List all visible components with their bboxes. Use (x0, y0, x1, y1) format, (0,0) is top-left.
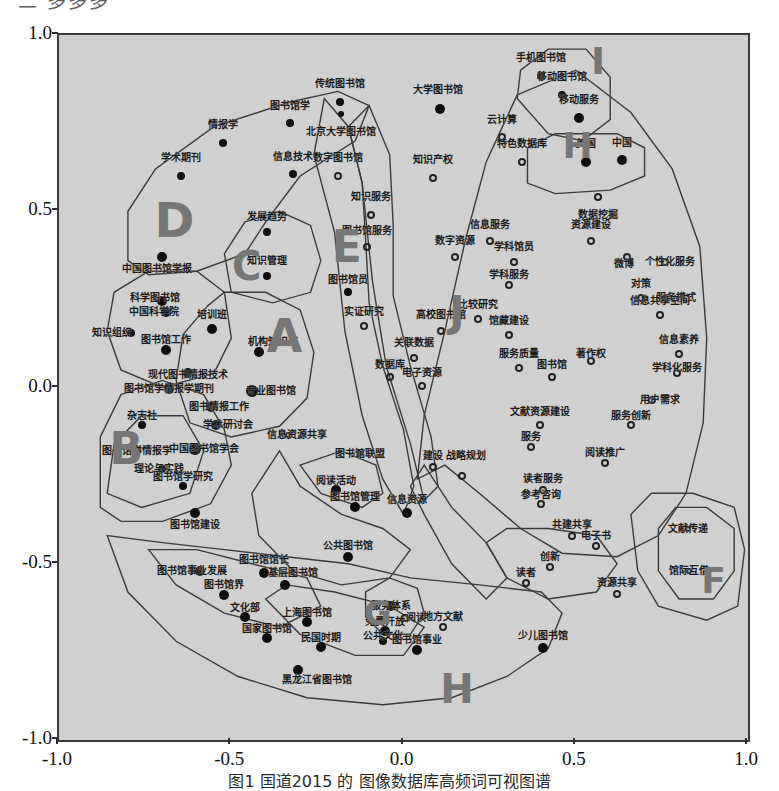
point-label: 知识服务 (351, 192, 391, 202)
x-axis-tick-mark (228, 738, 230, 744)
point-label: 传统图书馆 (315, 79, 365, 89)
point-label: 信息素养 (659, 335, 699, 345)
data-point (601, 459, 609, 467)
data-point (219, 590, 229, 600)
y-axis-tick-label: -1.0 (0, 727, 52, 749)
point-label: 关联数据 (394, 338, 434, 348)
data-point (429, 463, 437, 471)
data-point (548, 373, 556, 381)
data-point (410, 354, 418, 362)
point-label: 国家图书馆 (242, 624, 292, 634)
point-label: 阅读活动 (316, 476, 356, 486)
data-point (505, 281, 513, 289)
data-point (587, 237, 595, 245)
point-label: 中国图书馆学报 (122, 264, 192, 274)
point-label: 学术研讨会 (203, 420, 253, 430)
point-label: 服务 (521, 432, 541, 442)
data-point (627, 421, 635, 429)
cluster-letter-g: G (364, 596, 392, 630)
cluster-letter-h: H (562, 128, 592, 164)
point-label: 个性化服务 (645, 257, 695, 267)
data-point (302, 617, 312, 627)
data-point (656, 311, 664, 319)
point-label: 科学图书馆 (130, 293, 180, 303)
data-point (613, 590, 621, 598)
point-label: 学科化服务 (652, 363, 702, 373)
point-label: 图书馆 (537, 360, 567, 370)
cluster-letter-b: B (109, 427, 143, 471)
data-point (568, 532, 576, 540)
data-point (435, 104, 445, 114)
data-point (418, 382, 426, 390)
x-axis-tick-label: -1.0 (22, 748, 92, 770)
point-label: 上海图书馆 (282, 608, 332, 618)
point-label: 中国科学院 (129, 307, 179, 317)
point-label: 共建共享 (552, 520, 592, 530)
point-label: 信息服务 (470, 220, 510, 230)
point-label: 数据挖掘 (578, 210, 618, 220)
point-label: 图书馆学情报学期刊 (124, 384, 214, 394)
data-point (574, 113, 584, 123)
point-label: 移动图书馆 (537, 72, 587, 82)
point-label: 用户需求 (640, 395, 680, 405)
point-label: 图书馆事业 (392, 635, 442, 645)
y-axis-tick-label: 0.5 (0, 198, 52, 220)
x-axis-tick-mark (745, 738, 747, 744)
point-label: 中国 (612, 138, 632, 148)
point-label: 杂志社 (127, 411, 157, 421)
cluster-letter-h: H (440, 669, 473, 709)
data-point (363, 243, 371, 251)
cluster-letter-e: E (332, 225, 362, 269)
point-label: 电子资源 (402, 368, 442, 378)
plot-inner: 传统图书馆大学图书馆图书馆学北京大学图书馆情报学云计算信息技术学术期刊数字图书馆… (59, 35, 748, 740)
data-point (386, 373, 394, 381)
data-point (546, 563, 554, 571)
cluster-letter-a: A (267, 313, 303, 359)
point-label: 中国图书馆学会 (169, 444, 239, 454)
data-point (675, 350, 683, 358)
point-label: 图书馆馆长 (239, 555, 289, 565)
point-label: 电子书 (581, 531, 611, 541)
data-point (263, 272, 271, 280)
point-label: 基层图书馆 (268, 568, 318, 578)
point-label: 图书馆员 (328, 275, 368, 285)
point-label: 手机图书馆 (516, 53, 566, 63)
point-label: 文献传递 (668, 524, 708, 534)
data-point (486, 237, 494, 245)
top-clipped-text-strip: 二 多多多 (0, 0, 779, 12)
cluster-letter-c: C (232, 246, 261, 286)
x-axis-tick-mark (56, 738, 58, 744)
point-label: 图书馆学 (270, 101, 310, 111)
data-point (518, 158, 526, 166)
data-point (458, 472, 466, 480)
data-point (522, 579, 530, 587)
data-point (316, 642, 326, 652)
point-label: 北京大学图书馆 (306, 127, 376, 137)
data-point (474, 315, 482, 323)
data-point (177, 172, 185, 180)
x-axis-tick-mark (401, 738, 403, 744)
point-label: 服务创新 (611, 411, 651, 421)
data-point (402, 508, 412, 518)
data-point (179, 482, 187, 490)
data-point (538, 643, 548, 653)
x-axis-tick-label: 0.0 (367, 748, 437, 770)
scatter-plot-area: 传统图书馆大学图书馆图书馆学北京大学图书馆情报学云计算信息技术学术期刊数字图书馆… (57, 33, 750, 742)
point-label: 阅读推广 (585, 448, 625, 458)
point-label: 地方文献 (423, 612, 463, 622)
point-label: 微博 (614, 259, 634, 269)
point-label: 数字图书馆 (313, 153, 363, 163)
hull-f-outer (631, 493, 745, 620)
cluster-letter-j: J (449, 291, 465, 333)
figure-caption: 图1 国道2015 的 图像数据库高频词可视图谱 (0, 768, 779, 791)
data-point (527, 443, 535, 451)
point-label: 读者 (516, 568, 536, 578)
data-point (334, 172, 342, 180)
point-label: 情报学 (208, 120, 238, 130)
point-label: 创新 (540, 552, 560, 562)
cluster-letter-i: I (591, 42, 605, 80)
point-label: 资源建设 (571, 220, 611, 230)
x-axis-tick-label: 1.0 (711, 748, 779, 770)
point-label: 服务质量 (499, 349, 539, 359)
data-point (592, 542, 600, 550)
